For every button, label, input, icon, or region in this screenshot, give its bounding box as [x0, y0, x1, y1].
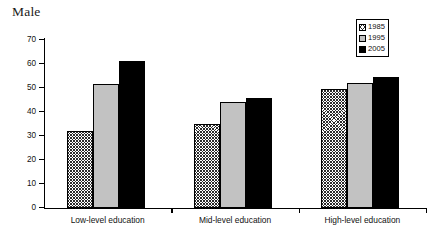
- y-tick-70: [39, 39, 45, 40]
- bar-1985-1: [194, 124, 220, 208]
- bar-2005-2: [373, 77, 399, 208]
- y-tick-label-20: 20: [6, 155, 36, 164]
- y-tick-40: [39, 111, 45, 112]
- y-tick-60: [39, 63, 45, 64]
- y-tick-label-50: 50: [6, 83, 36, 92]
- y-tick-label-30: 30: [6, 131, 36, 140]
- bar-1995-0: [93, 84, 119, 208]
- legend-item-1995: 1995: [359, 33, 385, 43]
- category-label-0: Low-level education: [44, 215, 171, 225]
- y-tick-label-0: 0: [6, 203, 36, 212]
- x-axis-line: [44, 208, 426, 209]
- legend-label-1995: 1995: [368, 34, 385, 42]
- x-tick-2: [426, 208, 427, 213]
- bar-1995-2: [347, 83, 373, 208]
- y-tick-label-10: 10: [6, 179, 36, 188]
- y-tick-label-70: 70: [6, 35, 36, 44]
- x-tick-0: [171, 208, 172, 213]
- legend-swatch-2005: [359, 46, 366, 53]
- chart-title: Male: [12, 4, 41, 20]
- legend-item-1985: 1985: [359, 22, 385, 32]
- legend-swatch-1995: [359, 35, 366, 42]
- legend-item-2005: 2005: [359, 44, 385, 54]
- y-tick-label-60: 60: [6, 59, 36, 68]
- legend-label-2005: 2005: [368, 45, 385, 53]
- bar-1995-1: [220, 102, 246, 208]
- y-tick-10: [39, 183, 45, 184]
- x-tick-1: [299, 208, 300, 213]
- bar-2005-1: [246, 98, 272, 207]
- category-label-1: Mid-level education: [171, 215, 298, 225]
- legend-label-1985: 1985: [368, 23, 385, 31]
- category-label-2: High-level education: [299, 215, 426, 225]
- y-tick-50: [39, 87, 45, 88]
- chart-legend: 198519952005: [356, 19, 389, 57]
- legend-swatch-1985: [359, 24, 366, 31]
- y-tick-20: [39, 159, 45, 160]
- y-tick-label-40: 40: [6, 107, 36, 116]
- y-tick-30: [39, 135, 45, 136]
- bar-1985-0: [67, 131, 93, 208]
- bar-1985-2: [321, 89, 347, 208]
- y-tick-0: [39, 207, 45, 208]
- bar-chart: Male 010203040506070 Low-level education…: [0, 0, 442, 243]
- bar-2005-0: [119, 61, 145, 207]
